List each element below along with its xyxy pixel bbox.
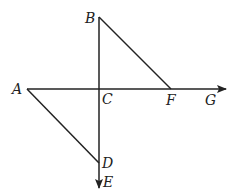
label-d: D	[101, 155, 113, 171]
label-b: B	[84, 10, 95, 26]
label-e: E	[102, 174, 113, 190]
geometry-diagram: A B C D E F G	[0, 0, 239, 191]
label-a: A	[10, 81, 22, 97]
segment-bf	[99, 17, 171, 89]
label-g: G	[205, 92, 216, 108]
label-c: C	[102, 91, 113, 107]
label-f: F	[165, 92, 177, 108]
segment-ad	[27, 89, 99, 163]
